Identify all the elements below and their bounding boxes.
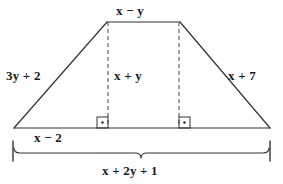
left-right-angle-dot <box>101 121 104 124</box>
right-right-angle-marker <box>179 117 190 128</box>
trapezoid-diagram-svg <box>0 0 283 184</box>
right-leg-line <box>180 22 270 128</box>
right-angle-markers <box>97 117 190 128</box>
brace-curve <box>14 148 269 158</box>
top-side-label: x − y <box>116 4 144 17</box>
base-segment-label: x − 2 <box>34 131 62 144</box>
height-label: x + y <box>114 69 142 82</box>
left-side-label: 3y + 2 <box>6 69 41 82</box>
geometry-figure: x − y 3y + 2 x + 7 x + y x − 2 x + 2y + … <box>0 0 283 184</box>
right-side-label: x + 7 <box>228 69 256 82</box>
left-right-angle-marker <box>97 117 108 128</box>
right-right-angle-dot <box>183 121 186 124</box>
base-total-label: x + 2y + 1 <box>102 164 158 177</box>
